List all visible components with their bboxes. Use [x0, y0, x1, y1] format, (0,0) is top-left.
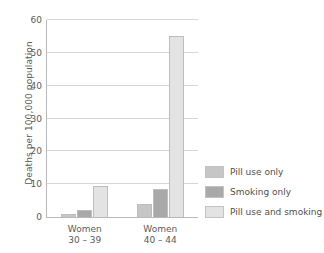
y-axis-tick-label: 10	[31, 179, 42, 189]
bar-chart: Deaths per 100,000 population 0102030405…	[0, 0, 324, 253]
y-axis-tick-label: 60	[31, 15, 42, 25]
y-axis-tick-label: 50	[31, 48, 42, 58]
x-axis-group-label: Women40 – 44	[143, 224, 177, 246]
bar	[153, 189, 168, 217]
x-axis-group-label: Women30 – 39	[68, 224, 102, 246]
legend-item: Smoking only	[205, 183, 322, 200]
plot-area: 0102030405060Women30 – 39Women40 – 44	[46, 20, 198, 218]
bar	[137, 204, 152, 217]
legend-label: Pill use only	[230, 167, 283, 177]
chart-legend: Pill use onlySmoking onlyPill use and sm…	[205, 163, 322, 223]
bar	[93, 186, 108, 217]
legend-label: Smoking only	[230, 187, 291, 197]
y-axis-tick-label: 20	[31, 146, 42, 156]
x-axis-group-label-line2: 30 – 39	[68, 235, 102, 246]
bar	[61, 214, 76, 217]
bar-group	[137, 20, 184, 217]
legend-swatch	[205, 186, 224, 198]
legend-label: Pill use and smoking	[230, 207, 322, 217]
bar	[169, 36, 184, 217]
bar-group	[61, 20, 108, 217]
x-axis-group-label-line2: 40 – 44	[143, 235, 177, 246]
x-axis-group-label-line1: Women	[143, 224, 177, 235]
legend-swatch	[205, 166, 224, 178]
legend-swatch	[205, 206, 224, 218]
y-axis-tick-label: 0	[36, 212, 42, 222]
y-axis-tick-label: 30	[31, 114, 42, 124]
y-axis-tick-label: 40	[31, 81, 42, 91]
legend-item: Pill use only	[205, 163, 322, 180]
bar	[77, 210, 92, 217]
legend-item: Pill use and smoking	[205, 203, 322, 220]
x-axis-group-label-line1: Women	[68, 224, 102, 235]
